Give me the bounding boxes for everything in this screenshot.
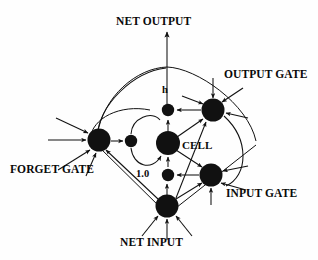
- forget-gate-node: [88, 129, 111, 152]
- output-gate-node: [202, 99, 225, 122]
- lstm-cell-diagram: [0, 0, 318, 260]
- forget-mul-node: [125, 135, 137, 147]
- net-input-node: [156, 195, 179, 218]
- net-input-label: NET INPUT: [120, 237, 183, 249]
- edge-net-input-to-forget-gate: [106, 150, 158, 199]
- cell-label: CELL: [182, 140, 212, 151]
- forget-gate-label: FORGET GATE: [10, 164, 94, 176]
- h-label: h: [162, 85, 168, 96]
- cell-node: [156, 131, 180, 155]
- output-gate-label: OUTPUT GATE: [224, 69, 307, 81]
- outer-recurrent-arc: [224, 116, 243, 186]
- input-gate-label: INPUT GATE: [226, 188, 297, 200]
- edge-cell-to-output-gate: [177, 119, 203, 137]
- input-gate-node: [200, 164, 223, 187]
- constant-error-carousel-label: 1.0: [136, 169, 149, 180]
- figure-canvas: NET OUTPUT NET INPUT OUTPUT GATE INPUT G…: [0, 0, 318, 260]
- h-node: [162, 104, 174, 116]
- left-outer-arc: [97, 68, 166, 136]
- one-zero-node: [162, 169, 174, 181]
- net-output-label: NET OUTPUT: [116, 16, 191, 28]
